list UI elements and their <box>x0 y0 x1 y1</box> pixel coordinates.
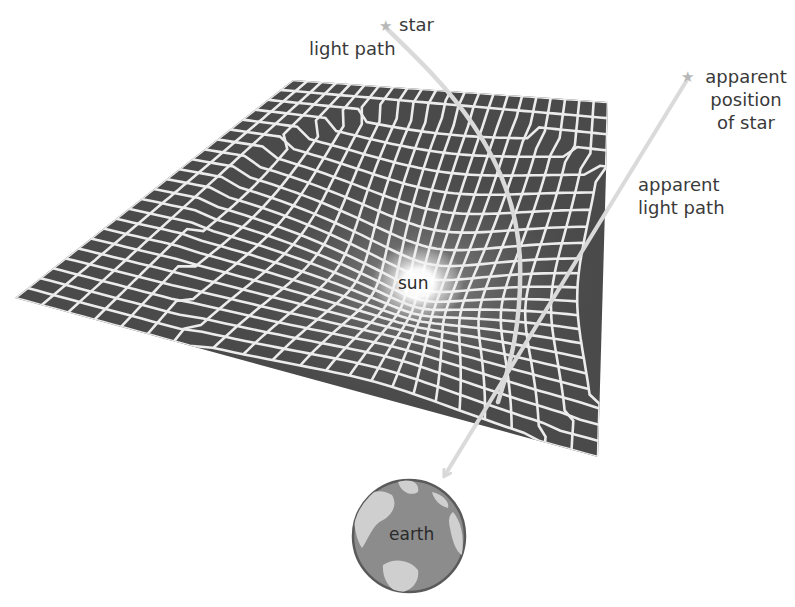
star-icon: ★ <box>379 19 392 34</box>
apparent-position-label: apparent position of star <box>703 65 789 134</box>
apparent-position-line-1: apparent <box>703 65 789 88</box>
apparent-star-icon: ★ <box>681 70 694 85</box>
apparent-position-line-2: position <box>703 88 789 111</box>
apparent-light-path-label: apparent light path <box>638 173 725 219</box>
apparent-light-path-line-1: apparent <box>638 173 725 196</box>
earth-label: earth <box>389 524 434 544</box>
spacetime-diagram <box>0 0 795 607</box>
apparent-light-path-line-2: light path <box>638 196 725 219</box>
sun-label: sun <box>398 273 428 293</box>
diagram-canvas: ★ star light path ★ apparent position of… <box>0 0 795 607</box>
light-path-label: light path <box>309 37 396 60</box>
apparent-position-line-3: of star <box>703 111 789 134</box>
star-label: star <box>399 13 434 36</box>
